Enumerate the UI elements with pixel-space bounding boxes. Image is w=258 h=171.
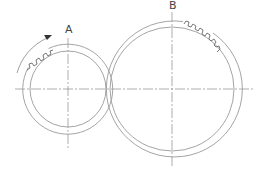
gear-a-label: A	[65, 23, 73, 36]
gear-b-teeth	[184, 21, 220, 52]
gear-b-outer-ring	[106, 21, 242, 157]
gear-diagram: A B	[0, 0, 258, 171]
gear-b-label: B	[169, 0, 177, 12]
gear-b	[106, 21, 242, 157]
gear-a-teeth	[27, 50, 53, 70]
